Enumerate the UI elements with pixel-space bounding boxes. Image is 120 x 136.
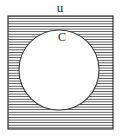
universe-label: u [57,0,64,15]
set-diagram-figure: u C [0,0,120,136]
set-c-label: C [58,30,66,44]
set-diagram-canvas: u C [0,0,120,136]
